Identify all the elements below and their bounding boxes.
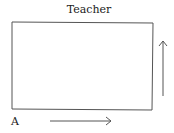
arrow-right-icon: [50, 117, 111, 125]
classroom-rectangle: [12, 22, 153, 110]
arrow-up-icon: [159, 41, 167, 96]
diagram-canvas: [0, 0, 174, 133]
point-a-label: A: [11, 115, 19, 128]
